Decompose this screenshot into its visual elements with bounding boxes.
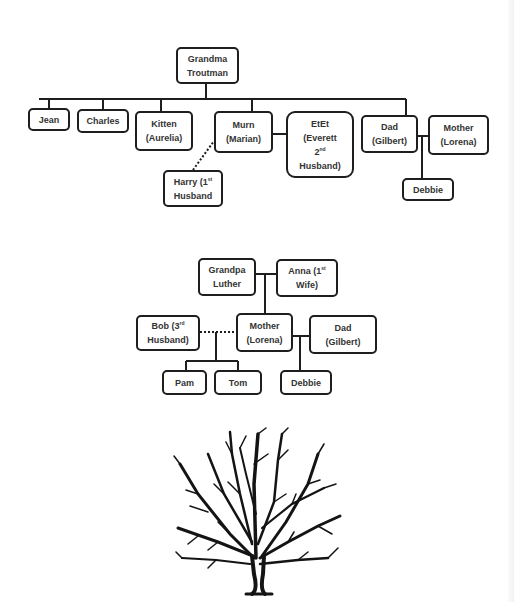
etet-label: EtEt (Everett 2nd Husband) [299, 117, 341, 173]
murn-label: Murn (Marian) [226, 118, 261, 146]
tom-label: Tom [229, 376, 247, 390]
debbie-box: Debbie [402, 178, 454, 201]
tom-box: Tom [214, 370, 262, 395]
bare-tree-icon [168, 424, 350, 596]
dad-gilbert-box: Dad (Gilbert) [309, 315, 377, 354]
grandma-troutman-box: Grandma Troutman [176, 47, 239, 84]
jean-box: Jean [28, 108, 70, 131]
charles-box: Charles [77, 109, 129, 133]
bob-box: Bob (3rd Husband) [136, 315, 200, 351]
anna-box: Anna (1st Wife) [276, 259, 338, 297]
harry-label: Harry (1st Husband [174, 175, 213, 203]
mother-lorena-box: Mother (Lorena) [236, 313, 293, 352]
murn-harry-dotted-line [193, 141, 214, 170]
mother2-label: Mother (Lorena) [247, 319, 283, 347]
anna-label: Anna (1st Wife) [288, 264, 325, 292]
mother-label: Mother (Lorena) [441, 121, 477, 149]
charles-label: Charles [86, 114, 119, 128]
grandma-label: Grandma Troutman [187, 52, 228, 80]
debbie-label: Debbie [413, 183, 443, 197]
mother-box: Mother (Lorena) [428, 115, 489, 155]
grandpa-luther-box: Grandpa Luther [198, 258, 256, 296]
debbie2-label: Debbie [291, 376, 321, 390]
harry-box: Harry (1st Husband [163, 170, 223, 207]
dad-label: Dad (Gilbert) [372, 120, 407, 148]
bob-label: Bob (3rd Husband) [147, 319, 189, 347]
kitten-box: Kitten (Aurelia) [135, 111, 193, 151]
pam-label: Pam [175, 376, 194, 390]
jean-label: Jean [39, 113, 60, 127]
kitten-label: Kitten (Aurelia) [146, 117, 183, 145]
dad2-label: Dad (Gilbert) [326, 321, 361, 349]
murn-box: Murn (Marian) [214, 111, 273, 153]
dad-box: Dad (Gilbert) [361, 115, 418, 153]
grandpa-label: Grandpa Luther [208, 263, 245, 291]
pam-box: Pam [162, 370, 207, 395]
debbie2-box: Debbie [280, 370, 332, 395]
etet-box: EtEt (Everett 2nd Husband) [286, 111, 354, 178]
